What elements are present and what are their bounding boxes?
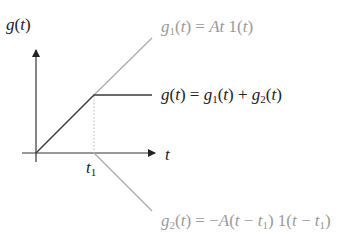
y-axis-label: g(t)	[6, 16, 31, 33]
g2-ramp-line	[94, 153, 152, 211]
diagram-canvas	[0, 0, 352, 240]
g1-ramp-line	[94, 38, 152, 95]
t1-tick-label: t1	[86, 159, 96, 176]
x-axis-label: t	[165, 146, 170, 163]
g1-equation: g1(t) = At 1(t)	[161, 18, 253, 35]
g-equation: g(t) = g1(t) + g2(t)	[161, 86, 282, 103]
g2-equation: g2(t) = −A(t − t1) 1(t − t1)	[161, 212, 331, 229]
